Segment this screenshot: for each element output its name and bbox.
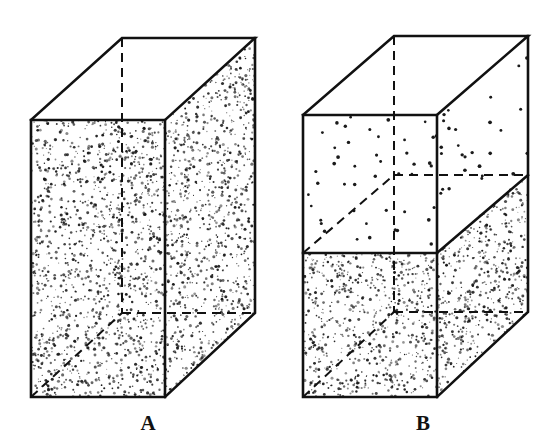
panel-b-label: B [416, 411, 430, 435]
panel-a-label: A [140, 411, 156, 435]
figure-container: A [0, 0, 554, 445]
box-diagram-svg: A [0, 0, 554, 445]
